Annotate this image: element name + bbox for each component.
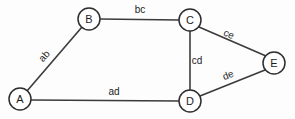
edge-label-ce: ce [222, 27, 237, 42]
edge-ad [31, 100, 179, 101]
graph-canvas: A B C D E ab bc ce cd de ad [0, 0, 295, 119]
node-label-c: C [186, 14, 194, 26]
edge-label-ad: ad [108, 86, 119, 97]
edge-label-de: de [221, 68, 236, 83]
edge-bc [100, 19, 179, 20]
edge-ab [27, 27, 82, 91]
node-group [9, 8, 285, 112]
edge-label-bc: bc [135, 4, 146, 15]
node-label-d: D [186, 95, 194, 107]
edge-label-group: ab bc ce cd de ad [36, 4, 236, 97]
edge-label-cd: cd [192, 55, 203, 66]
edge-label-ab: ab [36, 48, 52, 64]
graph-diagram: A B C D E ab bc ce cd de ad [0, 0, 295, 119]
node-label-e: E [270, 57, 277, 69]
node-label-a: A [16, 93, 24, 105]
node-label-group: A B C D E [16, 13, 277, 107]
node-label-b: B [85, 13, 92, 25]
